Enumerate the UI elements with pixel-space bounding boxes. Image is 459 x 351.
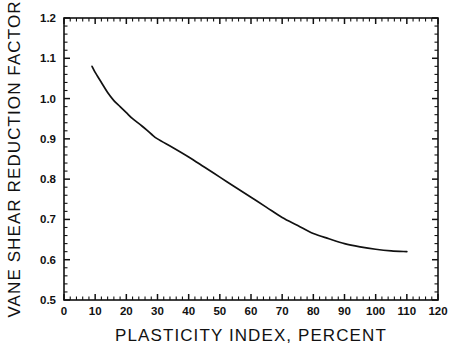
x-tick-label: 60 (245, 305, 258, 317)
x-tick-label: 120 (428, 305, 447, 317)
x-tick-label: 0 (61, 305, 67, 317)
y-tick-label: 1.0 (40, 93, 56, 105)
chart-background (0, 0, 459, 351)
y-axis-title: VANE SHEAR REDUCTION FACTOR (5, 0, 24, 317)
chart-figure: 0102030405060708090100110120 0.50.60.70.… (0, 0, 459, 351)
x-tick-label: 10 (89, 305, 102, 317)
y-tick-label: 0.9 (40, 133, 56, 145)
y-tick-label: 1.1 (40, 52, 57, 64)
vane-shear-reduction-factor-chart: 0102030405060708090100110120 0.50.60.70.… (0, 0, 459, 351)
y-tick-label: 1.2 (40, 12, 56, 24)
x-tick-label: 30 (151, 305, 164, 317)
x-tick-label: 40 (182, 305, 195, 317)
x-tick-label: 90 (338, 305, 351, 317)
x-tick-label: 100 (366, 305, 385, 317)
x-axis-title: PLASTICITY INDEX, PERCENT (115, 326, 387, 345)
y-tick-label: 0.8 (40, 173, 57, 185)
x-tick-label: 20 (120, 305, 133, 317)
x-tick-label: 70 (276, 305, 289, 317)
x-tick-label: 50 (213, 305, 226, 317)
y-tick-label: 0.5 (40, 294, 57, 306)
x-tick-label: 80 (307, 305, 320, 317)
x-tick-label: 110 (398, 305, 417, 317)
y-tick-label: 0.6 (40, 254, 56, 266)
y-tick-label: 0.7 (40, 213, 56, 225)
